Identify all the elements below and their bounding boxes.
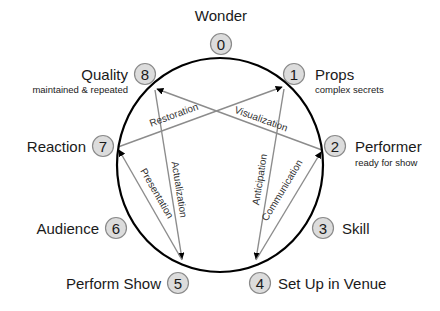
stage-name: Props xyxy=(315,66,354,83)
stage-6: 6Audience xyxy=(36,218,126,239)
stage-subtitle: ready for show xyxy=(355,157,417,168)
stage-number: 0 xyxy=(217,36,225,53)
stage-number: 4 xyxy=(256,275,264,292)
stage-subtitle: complex secrets xyxy=(315,84,384,95)
stage-name: Skill xyxy=(342,220,370,237)
stage-number: 7 xyxy=(99,138,107,155)
stage-number: 2 xyxy=(331,138,339,155)
edge-labels-layer: RestorationVisualizationActualizationPre… xyxy=(138,101,304,223)
stage-name: Reaction xyxy=(27,138,86,155)
arrow-visualization xyxy=(157,89,322,150)
stage-0: 0Wonder xyxy=(195,7,247,55)
stage-number: 1 xyxy=(290,66,298,83)
stage-name: Wonder xyxy=(195,7,247,24)
stage-subtitle: maintained & repeated xyxy=(32,84,128,95)
stage-7: 7Reaction xyxy=(27,136,114,157)
stage-5: 5Perform Show xyxy=(66,273,189,294)
stage-1: 1Propscomplex secrets xyxy=(284,64,384,96)
stage-number: 5 xyxy=(174,275,182,292)
stage-name: Audience xyxy=(36,220,99,237)
stage-3: 3Skill xyxy=(313,218,370,239)
stage-name: Performer xyxy=(355,138,422,155)
stage-4: 4Set Up in Venue xyxy=(250,273,387,294)
stage-2: 2Performerready for show xyxy=(325,136,422,169)
arrow-label-restoration: Restoration xyxy=(148,101,200,129)
stage-name: Perform Show xyxy=(66,275,161,292)
stages-layer: 0Wonder1Propscomplex secrets2Performerre… xyxy=(27,7,422,294)
stage-number: 6 xyxy=(112,220,120,237)
stage-number: 8 xyxy=(141,66,149,83)
stage-name: Quality xyxy=(81,66,128,83)
stage-8: 8Qualitymaintained & repeated xyxy=(32,64,155,96)
stage-name: Set Up in Venue xyxy=(278,275,386,292)
magic-cycle-diagram: RestorationVisualizationActualizationPre… xyxy=(0,0,440,311)
stage-number: 3 xyxy=(319,220,327,237)
